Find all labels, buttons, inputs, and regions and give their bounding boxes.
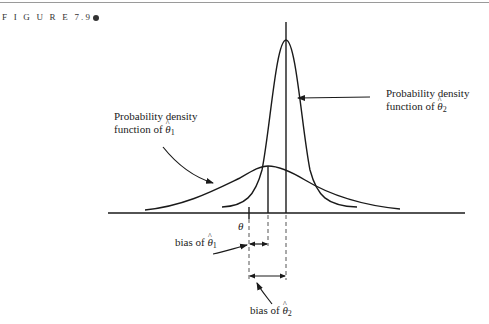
- theta-hat-symbol: θ: [165, 123, 170, 136]
- pdf-curve-theta2: [222, 40, 357, 207]
- label-line: Probability density: [114, 110, 197, 123]
- label-pdf-theta1: Probability density function of θ1: [114, 110, 197, 139]
- label-line: function of θ2: [386, 100, 469, 116]
- label-bias-theta2: bias of θ2: [250, 304, 292, 320]
- theta-hat-symbol: θ: [207, 236, 212, 249]
- pointer-arrow-theta2: [298, 97, 370, 98]
- label-pdf-theta2: Probability density function of θ2: [386, 87, 469, 116]
- label-theta: θ: [238, 220, 243, 233]
- label-text: function of: [114, 123, 163, 135]
- pdf-curve-theta1: [145, 166, 400, 210]
- subscript: 2: [443, 105, 447, 114]
- pointer-arrow-bias1: [213, 245, 247, 254]
- pointer-arrow-bias2: [257, 283, 272, 304]
- label-text: function of: [386, 100, 435, 112]
- theta-hat-symbol: θ: [437, 100, 442, 113]
- subscript: 1: [171, 128, 175, 137]
- diagram-canvas: [0, 0, 489, 324]
- subscript: 2: [288, 309, 292, 318]
- subscript: 1: [213, 241, 217, 250]
- label-text: bias of: [250, 304, 280, 316]
- label-bias-theta1: bias of θ1: [175, 236, 217, 252]
- theta-hat-symbol: θ: [282, 304, 287, 317]
- label-text: bias of: [175, 236, 205, 248]
- label-line: Probability density: [386, 87, 469, 100]
- label-line: function of θ1: [114, 123, 197, 139]
- pointer-arrow-theta1: [163, 147, 213, 183]
